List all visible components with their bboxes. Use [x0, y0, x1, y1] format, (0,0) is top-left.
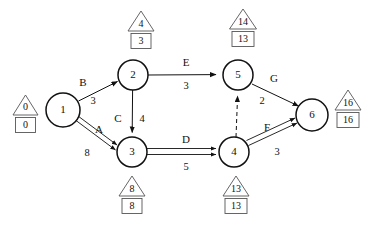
- time-marker-node-2: 4 3: [128, 11, 154, 49]
- activity-label-C: C: [114, 112, 121, 124]
- activity-arrow-B: B 3: [79, 76, 118, 106]
- activity-arrow-D: D 5: [147, 133, 216, 172]
- event-node-1[interactable]: 1: [46, 93, 80, 127]
- event-node-2[interactable]: 2: [118, 60, 148, 90]
- activity-label-B: B: [79, 76, 86, 88]
- activity-label-D: D: [182, 133, 190, 145]
- activity-duration-D: 5: [183, 161, 188, 172]
- activity-arrow-F: F 3: [247, 118, 298, 157]
- activity-arrow-G: G 2: [252, 72, 299, 106]
- earliest-time-value-node-4: 13: [231, 200, 241, 211]
- time-marker-node-5: 14 13: [230, 9, 257, 47]
- latest-time-value-node-3: 8: [130, 183, 135, 194]
- activity-label-E: E: [183, 56, 190, 68]
- event-node-6[interactable]: 6: [296, 99, 328, 131]
- activity-label-F: F: [264, 121, 270, 133]
- latest-time-value-node-5: 14: [238, 16, 248, 27]
- event-node-2-label: 2: [130, 68, 136, 80]
- latest-time-value-node-1: 0: [23, 101, 28, 112]
- time-marker-node-6: 16 16: [335, 90, 361, 128]
- activity-arrow-dummy-4-5: [236, 96, 238, 137]
- earliest-time-value-node-3: 8: [130, 200, 135, 211]
- earliest-time-value-node-1: 0: [23, 119, 28, 130]
- network-diagram-canvas: B 3 A 8 C 4 E 3 D 5 F 3 G 2: [0, 0, 367, 228]
- earliest-time-value-node-2: 3: [139, 35, 144, 46]
- earliest-time-value-node-6: 16: [343, 114, 353, 125]
- activity-duration-A: 8: [84, 147, 89, 158]
- activity-label-A: A: [95, 123, 103, 135]
- event-node-5[interactable]: 5: [223, 60, 253, 90]
- activity-arrow-E: E 3: [148, 56, 216, 91]
- activity-label-G: G: [270, 72, 278, 84]
- event-node-5-label: 5: [235, 68, 241, 80]
- latest-time-value-node-2: 4: [139, 18, 144, 29]
- earliest-time-value-node-5: 13: [238, 33, 248, 44]
- activity-arrow-C: C 4: [114, 90, 145, 133]
- activity-duration-G: 2: [259, 95, 264, 106]
- latest-time-value-node-4: 13: [231, 183, 241, 194]
- activity-arrow-A: A 8: [76, 116, 117, 158]
- event-node-3[interactable]: 3: [117, 137, 147, 167]
- event-node-4[interactable]: 4: [219, 137, 249, 167]
- event-node-1-label: 1: [60, 103, 66, 115]
- time-marker-node-1: 0 0: [13, 95, 38, 133]
- event-node-4-label: 4: [231, 145, 237, 157]
- event-node-6-label: 6: [309, 108, 315, 120]
- latest-time-value-node-6: 16: [343, 97, 353, 108]
- event-node-3-label: 3: [129, 145, 135, 157]
- activity-duration-C: 4: [139, 113, 145, 124]
- activity-duration-B: 3: [90, 95, 95, 106]
- time-marker-node-4: 13 13: [223, 176, 249, 214]
- activity-duration-F: 3: [274, 146, 279, 157]
- activity-duration-E: 3: [183, 80, 188, 91]
- time-marker-node-3: 8 8: [119, 176, 145, 214]
